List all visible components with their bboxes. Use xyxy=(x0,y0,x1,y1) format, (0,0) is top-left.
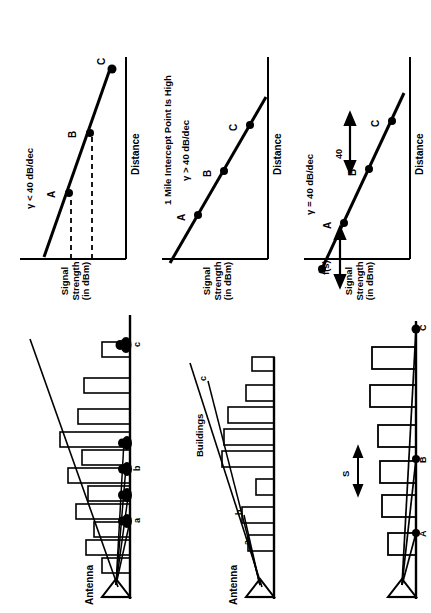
scene-bottom-drawing xyxy=(292,307,427,607)
plot-top: A B C γ < 40 dB/dec Distance Signal Stre… xyxy=(14,43,146,293)
plot-middle: A B C 1 Mile Intercept Point Is High γ >… xyxy=(156,43,288,293)
scene-middle-drawing xyxy=(150,307,285,607)
plot-bottom-ylabel: Signal Strength (in dBm) xyxy=(344,231,376,331)
plot-middle-point-c xyxy=(246,121,254,129)
plot-middle-annotation: γ > 40 dB/dec xyxy=(180,120,191,181)
scene-top-ray-label-a: a xyxy=(132,518,142,523)
plot-middle-ylabel-line3: (in dBm) xyxy=(223,231,234,331)
scene-bottom-spacing-label: S xyxy=(340,471,351,477)
scene-middle-antenna-label: Antenna xyxy=(228,565,239,605)
scene-top-antenna-label: Antenna xyxy=(84,565,95,605)
plot-bottom: A B C 40 f(s) γ = 40 dB/dec Distance Sig… xyxy=(298,43,430,293)
scene-bottom-ray-label-a: A xyxy=(418,531,428,538)
plot-bottom-point-a xyxy=(340,219,348,227)
plot-top-ylabel-line3: (in dBm) xyxy=(81,231,92,331)
plot-top-ylabel: Signal Strength (in dBm) xyxy=(60,231,92,331)
plot-bottom-annotation: γ = 40 dB/dec xyxy=(304,154,315,215)
plot-middle-ylabel-line1: Signal xyxy=(202,231,213,331)
scene-top: Antenna a b c xyxy=(6,307,141,607)
scene-middle-buildings-label: Buildings xyxy=(194,414,205,457)
scene-bottom-ray-label-c: C xyxy=(418,325,428,332)
plot-middle-label-a: A xyxy=(176,214,187,221)
plot-bottom-xlabel: Distance xyxy=(414,133,425,175)
plot-middle-point-a xyxy=(194,211,202,219)
plot-top-point-c xyxy=(108,65,117,74)
plot-bottom-intercept-label: f(s) xyxy=(320,260,331,275)
plot-bottom-label-b: B xyxy=(347,169,358,176)
scene-middle: Antenna Buildings a b c xyxy=(150,307,285,607)
spacing-arrow xyxy=(354,447,362,495)
upper-double-arrow xyxy=(345,113,355,173)
plot-bottom-ylabel-line1: Signal xyxy=(344,231,355,331)
plot-bottom-point-b xyxy=(365,165,373,173)
scene-top-ray-label-b: b xyxy=(132,466,142,472)
plot-top-label-a: A xyxy=(46,191,57,198)
scene-middle-ray-label-a: a xyxy=(242,540,252,545)
plot-middle-annotation-top: 1 Mile Intercept Point Is High xyxy=(162,75,173,205)
plot-bottom-label-a: A xyxy=(322,222,333,229)
plot-middle-label-c: C xyxy=(228,124,239,131)
figure-root: Antenna a b c A B C γ < 40 dB/dec Distan… xyxy=(0,0,431,613)
plot-bottom-ylabel-line3: (in dBm) xyxy=(365,231,376,331)
plot-middle-label-b: B xyxy=(202,170,213,177)
plot-middle-xlabel: Distance xyxy=(272,133,283,175)
scene-bottom: A B C S xyxy=(292,307,427,607)
plot-top-label-c: C xyxy=(96,58,107,65)
plot-top-point-b xyxy=(86,129,94,137)
plot-middle-ylabel: Signal Strength (in dBm) xyxy=(202,231,234,331)
plot-top-xlabel: Distance xyxy=(130,133,141,175)
plot-bottom-point-c xyxy=(388,117,396,125)
scene-middle-ray-label-c: c xyxy=(198,376,208,381)
plot-top-label-b: B xyxy=(67,131,78,138)
plot-top-point-a xyxy=(65,189,73,197)
scene-top-drawing xyxy=(6,307,141,607)
scene-top-ray-label-c: c xyxy=(132,342,142,347)
plot-bottom-slope-value: 40 xyxy=(334,149,344,159)
plot-top-annotation: γ < 40 dB/dec xyxy=(24,148,35,209)
plot-bottom-label-c: C xyxy=(370,120,381,127)
scene-bottom-ray-label-b: B xyxy=(418,457,428,464)
scene-middle-ray-label-b: b xyxy=(234,510,244,516)
plot-middle-point-b xyxy=(220,167,228,175)
plot-top-ylabel-line1: Signal xyxy=(60,231,71,331)
